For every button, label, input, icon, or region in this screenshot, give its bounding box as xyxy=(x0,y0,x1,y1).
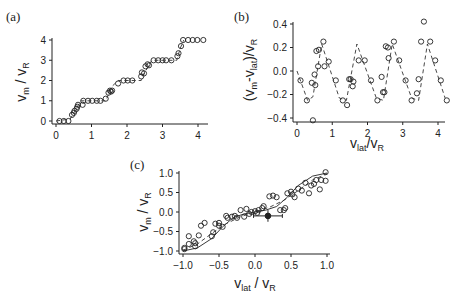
y-tick-label: 1 xyxy=(40,95,46,106)
y-tick-label: 0.0 xyxy=(273,66,287,77)
panel-a-data xyxy=(56,37,206,123)
data-point xyxy=(433,58,438,63)
data-point xyxy=(444,98,449,103)
data-point xyxy=(201,37,206,42)
data-point xyxy=(416,77,421,82)
data-point xyxy=(202,220,207,225)
y-tick-label: 1.0 xyxy=(159,168,173,179)
x-tick-label: 4 xyxy=(435,128,441,139)
x-tick-label: 0.5 xyxy=(284,260,298,271)
y-tick-label: 0.0 xyxy=(159,207,173,218)
data-point xyxy=(196,233,201,238)
x-tick-label: 3 xyxy=(400,128,406,139)
x-tick-label: 1 xyxy=(329,128,335,139)
data-point xyxy=(322,64,327,69)
figure: (a) vm / vR 0123401234 (b) (vm-vlat)/vR … xyxy=(0,0,459,302)
x-tick-label: 0 xyxy=(53,130,59,141)
data-point xyxy=(317,187,322,192)
x-tick-label: −0.5 xyxy=(209,260,229,271)
x-tick-label: 0.0 xyxy=(248,260,262,271)
data-point xyxy=(181,37,186,42)
y-tick-label: 2 xyxy=(40,75,46,86)
x-tick-label: 1.0 xyxy=(320,260,334,271)
mean-point xyxy=(265,213,271,219)
panel-a-chart: (a) vm / vR 0123401234 xyxy=(6,9,208,141)
panel-a-label: (a) xyxy=(6,9,20,24)
panel-b-label: (b) xyxy=(234,9,249,24)
data-point xyxy=(414,91,419,96)
data-point xyxy=(146,63,151,68)
x-tick-label: 3 xyxy=(160,130,166,141)
data-point xyxy=(238,208,243,213)
y-tick-label: −0.5 xyxy=(153,226,173,237)
data-point xyxy=(362,58,367,63)
x-tick-label: 4 xyxy=(195,130,201,141)
data-point xyxy=(421,19,426,24)
y-tick-label: 4 xyxy=(40,35,46,46)
panel-c-chart: (c) vm / vR vlat / vR −1.0−0.50.00.51.0−… xyxy=(130,157,334,293)
x-tick-label: 0 xyxy=(294,128,300,139)
data-point xyxy=(186,234,191,239)
panel-b-ylabel: (vm-vlat)/vR xyxy=(241,38,259,101)
panel-b-chart: (b) (vm-vlat)/vR vlat/vR 01234−0.4−0.20.… xyxy=(234,9,449,153)
data-point xyxy=(428,39,433,44)
data-point xyxy=(345,103,350,108)
data-point xyxy=(186,241,191,246)
y-tick-label: −0.4 xyxy=(267,113,287,124)
panel-c-xlabel: vlat / vR xyxy=(234,275,276,293)
y-tick-label: 0 xyxy=(40,116,46,127)
x-tick-label: 2 xyxy=(365,128,371,139)
panel-b-data xyxy=(297,19,449,123)
panel-c-label: (c) xyxy=(130,157,144,172)
y-tick-label: 0.4 xyxy=(273,19,287,30)
data-point xyxy=(267,194,272,199)
data-point xyxy=(306,191,311,196)
data-point xyxy=(244,206,249,211)
y-tick-label: −1.0 xyxy=(153,246,173,257)
panel-a-axes: 0123401234 xyxy=(40,35,208,142)
panel-b-axes: 01234−0.4−0.20.00.20.4 xyxy=(267,19,445,140)
data-point xyxy=(321,39,326,44)
y-tick-label: 3 xyxy=(40,55,46,66)
data-point xyxy=(379,74,384,79)
x-tick-label: 1 xyxy=(89,130,95,141)
data-point xyxy=(356,58,361,63)
panel-a-ylabel: vm / vR xyxy=(13,62,31,102)
x-tick-label: 2 xyxy=(124,130,130,141)
model-solid-line xyxy=(183,173,327,251)
panel-c-ylabel: vm / vR xyxy=(135,192,153,232)
data-point xyxy=(391,39,396,44)
y-tick-label: −0.2 xyxy=(267,89,287,100)
y-tick-label: 0.2 xyxy=(273,42,287,53)
panel-c-data xyxy=(182,170,328,252)
data-point xyxy=(198,223,203,228)
y-tick-label: 0.5 xyxy=(159,187,173,198)
x-tick-label: −1.0 xyxy=(173,260,193,271)
data-point xyxy=(419,39,424,44)
data-point xyxy=(116,81,121,86)
